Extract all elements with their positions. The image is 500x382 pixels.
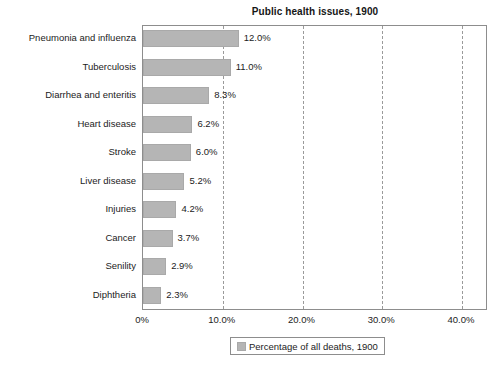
y-axis-label-liver-disease: Liver disease <box>0 175 136 186</box>
bar[interactable] <box>143 144 191 161</box>
y-axis-label-diphtheria: Diphtheria <box>0 289 136 300</box>
bar[interactable] <box>143 116 192 133</box>
x-tick-label: 40.0% <box>448 314 475 325</box>
x-tick-label: 10.0% <box>208 314 235 325</box>
bar-row: 2.3% <box>143 287 486 304</box>
bar-value-label: 2.3% <box>166 289 188 300</box>
bar-row: 12.0% <box>143 30 486 47</box>
y-axis-label-diarrhea-and-enteritis: Diarrhea and enteritis <box>0 89 136 100</box>
chart-title: Public health issues, 1900 <box>142 6 488 17</box>
bar-row: 8.3% <box>143 87 486 104</box>
legend-color-swatch <box>237 342 246 351</box>
bar-value-label: 5.2% <box>189 175 211 186</box>
y-axis-label-injuries: Injuries <box>0 203 136 214</box>
chart-legend: Percentage of all deaths, 1900 <box>230 337 385 355</box>
legend-label: Percentage of all deaths, 1900 <box>249 341 378 352</box>
y-axis-label-tuberculosis: Tuberculosis <box>0 61 136 72</box>
bar-row: 2.9% <box>143 258 486 275</box>
bar[interactable] <box>143 173 184 190</box>
bar-value-label: 6.2% <box>197 118 219 129</box>
bar[interactable] <box>143 287 161 304</box>
y-axis-label-pneumonia-and-influenza: Pneumonia and influenza <box>0 32 136 43</box>
y-axis-category-labels: Pneumonia and influenzaTuberculosisDiarr… <box>0 25 136 310</box>
bar-row: 4.2% <box>143 201 486 218</box>
y-axis-label-heart-disease: Heart disease <box>0 118 136 129</box>
y-axis-label-stroke: Stroke <box>0 146 136 157</box>
bar[interactable] <box>143 30 239 47</box>
bar[interactable] <box>143 87 209 104</box>
bar-row: 5.2% <box>143 173 486 190</box>
bar-value-label: 12.0% <box>244 32 271 43</box>
bar-series: 12.0%11.0%8.3%6.2%6.0%5.2%4.2%3.7%2.9%2.… <box>143 26 486 309</box>
bar-row: 6.2% <box>143 116 486 133</box>
bar-value-label: 4.2% <box>181 203 203 214</box>
bar-value-label: 11.0% <box>236 61 262 72</box>
x-tick-label: 20.0% <box>288 314 315 325</box>
bar[interactable] <box>143 258 166 275</box>
y-axis-label-senility: Senility <box>0 260 136 271</box>
bar-row: 3.7% <box>143 230 486 247</box>
bar-value-label: 6.0% <box>196 146 218 157</box>
x-tick-label: 30.0% <box>368 314 395 325</box>
y-axis-label-cancer: Cancer <box>0 232 136 243</box>
plot-area: 12.0%11.0%8.3%6.2%6.0%5.2%4.2%3.7%2.9%2.… <box>142 25 487 310</box>
bar[interactable] <box>143 59 231 76</box>
bar-value-label: 3.7% <box>178 232 200 243</box>
bar[interactable] <box>143 230 173 247</box>
bar-value-label: 2.9% <box>171 260 193 271</box>
bar[interactable] <box>143 201 176 218</box>
bar-row: 11.0% <box>143 59 486 76</box>
bar-row: 6.0% <box>143 144 486 161</box>
x-axis-tick-labels: 0%10.0%20.0%30.0%40.0% <box>0 314 500 330</box>
bar-value-label: 8.3% <box>214 89 236 100</box>
x-tick-label: 0% <box>135 314 149 325</box>
